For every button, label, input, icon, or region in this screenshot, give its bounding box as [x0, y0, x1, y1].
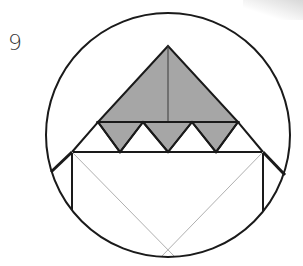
small-gray-triangle-3	[192, 122, 238, 152]
geometric-diagram	[0, 0, 303, 266]
right-diagonal-extension	[263, 152, 285, 175]
small-gray-triangle-1	[98, 122, 143, 152]
left-diagonal-extension	[51, 152, 72, 172]
thin-diagonal-left	[72, 152, 175, 257]
thin-diagonal-right	[161, 152, 263, 257]
small-gray-triangle-2	[143, 122, 192, 152]
